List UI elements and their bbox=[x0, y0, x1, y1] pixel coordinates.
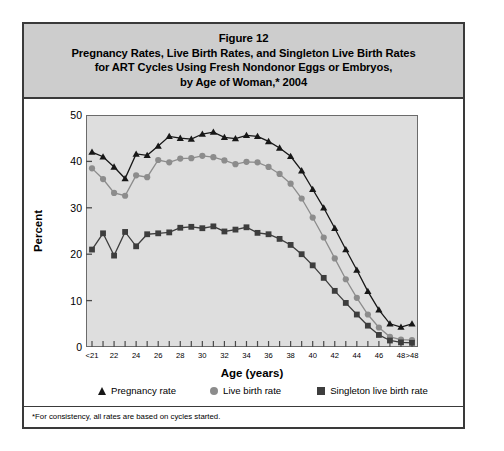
figure-panel: Figure 12 Pregnancy Rates, Live Birth Ra… bbox=[22, 22, 465, 429]
x-tick-label: 24 bbox=[132, 351, 140, 360]
y-tick-label: 10 bbox=[52, 295, 82, 307]
x-tick-label: >48 bbox=[406, 351, 419, 360]
data-point-square bbox=[122, 229, 128, 235]
data-point-circle bbox=[144, 174, 150, 180]
data-point-square bbox=[133, 243, 139, 249]
figure-title-line-3: for ART Cycles Using Fresh Nondonor Eggs… bbox=[34, 60, 453, 75]
data-point-circle bbox=[221, 157, 227, 163]
y-tick-label: 20 bbox=[52, 248, 82, 260]
legend-item-live-birth-rate: Live birth rate bbox=[210, 385, 281, 396]
x-tick-label: 22 bbox=[110, 351, 118, 360]
data-point-circle bbox=[210, 154, 216, 160]
figure-title-band: Figure 12 Pregnancy Rates, Live Birth Ra… bbox=[24, 24, 463, 99]
data-point-triangle bbox=[375, 306, 382, 312]
data-point-circle bbox=[310, 214, 316, 220]
x-tick-label: 36 bbox=[264, 351, 272, 360]
data-point-circle bbox=[133, 172, 139, 178]
data-point-square bbox=[343, 300, 349, 306]
data-point-square bbox=[199, 225, 205, 231]
data-point-circle bbox=[343, 276, 349, 282]
legend-item-singleton-live-birth-rate: Singleton live birth rate bbox=[317, 385, 428, 396]
legend-item-pregnancy-rate: Pregnancy rate bbox=[98, 385, 176, 396]
data-point-square bbox=[233, 227, 239, 233]
data-point-square bbox=[354, 312, 360, 318]
data-point-square bbox=[210, 223, 216, 229]
data-point-triangle bbox=[243, 132, 250, 138]
data-point-circle bbox=[199, 153, 205, 159]
data-point-circle bbox=[166, 159, 172, 165]
x-tick-label: 48 bbox=[397, 351, 405, 360]
y-tick-label: 40 bbox=[52, 155, 82, 167]
data-point-triangle bbox=[320, 204, 327, 210]
data-point-circle bbox=[288, 181, 294, 187]
data-point-square bbox=[177, 225, 183, 231]
x-tick-label: 44 bbox=[353, 351, 361, 360]
data-point-square bbox=[409, 340, 415, 346]
data-point-circle bbox=[365, 311, 371, 317]
chart-legend: Pregnancy rate Live birth rate Singleton… bbox=[86, 385, 431, 396]
data-point-triangle bbox=[408, 320, 415, 326]
data-point-square bbox=[310, 262, 316, 268]
x-tick-label: 32 bbox=[220, 351, 228, 360]
figure-number: Figure 12 bbox=[34, 31, 453, 46]
data-point-circle bbox=[376, 324, 382, 330]
data-point-square bbox=[155, 230, 161, 236]
data-point-square bbox=[222, 229, 228, 235]
footnote-text: *For consistency, all rates are based on… bbox=[32, 412, 455, 421]
data-point-square bbox=[277, 236, 283, 242]
data-point-circle bbox=[177, 156, 183, 162]
x-tick-label: 42 bbox=[331, 351, 339, 360]
chart-body: Percent 01020304050 <2122242628303234363… bbox=[24, 99, 463, 401]
data-point-circle bbox=[89, 165, 95, 171]
data-point-circle bbox=[188, 155, 194, 161]
data-point-circle bbox=[122, 193, 128, 199]
x-tick-label: 38 bbox=[286, 351, 294, 360]
data-point-circle bbox=[254, 159, 260, 165]
data-point-triangle bbox=[133, 150, 140, 156]
data-point-square bbox=[89, 247, 95, 253]
data-point-triangle bbox=[353, 266, 360, 272]
data-point-square bbox=[255, 230, 261, 236]
data-point-square bbox=[266, 231, 272, 237]
data-point-circle bbox=[100, 176, 106, 182]
footnote-box: *For consistency, all rates are based on… bbox=[24, 406, 463, 427]
data-point-triangle bbox=[309, 186, 316, 192]
data-point-triangle bbox=[331, 225, 338, 231]
data-point-square bbox=[321, 275, 327, 281]
data-point-circle bbox=[332, 255, 338, 261]
data-point-triangle bbox=[364, 288, 371, 294]
plot-wrap: 01020304050 <212224262830323436384042444… bbox=[86, 115, 418, 347]
x-tick-label: 30 bbox=[198, 351, 206, 360]
data-point-circle bbox=[276, 171, 282, 177]
data-point-triangle bbox=[342, 246, 349, 252]
square-marker-icon bbox=[317, 387, 325, 395]
x-tick-label: 40 bbox=[308, 351, 316, 360]
data-point-square bbox=[111, 253, 117, 259]
data-point-square bbox=[299, 251, 305, 257]
data-point-square bbox=[100, 230, 106, 236]
data-point-square bbox=[398, 339, 404, 345]
triangle-marker-icon bbox=[98, 387, 106, 395]
data-point-square bbox=[188, 224, 194, 230]
data-point-circle bbox=[232, 161, 238, 167]
data-point-triangle bbox=[88, 149, 95, 155]
x-tick-label: <21 bbox=[86, 351, 99, 360]
y-tick-label: 0 bbox=[52, 341, 82, 353]
legend-label-live-birth-rate: Live birth rate bbox=[223, 385, 281, 396]
legend-label-singleton-live-birth-rate: Singleton live birth rate bbox=[330, 385, 428, 396]
x-tick-label: 34 bbox=[242, 351, 250, 360]
x-tick-label: 28 bbox=[176, 351, 184, 360]
x-tick-label: 46 bbox=[375, 351, 383, 360]
x-axis-title: Age (years) bbox=[86, 367, 418, 379]
legend-label-pregnancy-rate: Pregnancy rate bbox=[111, 385, 176, 396]
data-point-square bbox=[144, 231, 150, 237]
figure-title-line-2: Pregnancy Rates, Live Birth Rates, and S… bbox=[34, 46, 453, 61]
data-point-square bbox=[376, 332, 382, 338]
data-point-circle bbox=[299, 195, 305, 201]
data-point-circle bbox=[243, 159, 249, 165]
chart-svg bbox=[86, 115, 418, 347]
figure-title-line-4: by Age of Woman,* 2004 bbox=[34, 75, 453, 90]
data-point-square bbox=[332, 288, 338, 294]
data-point-circle bbox=[155, 157, 161, 163]
data-point-circle bbox=[354, 295, 360, 301]
